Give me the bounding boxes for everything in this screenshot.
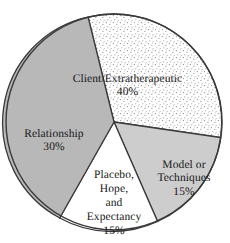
pie-label-client-extratherapeutic-text: Client/Extratherapeutic [73,73,183,85]
pie-label-model-or-techniques: Model or Techniques 15% [142,145,226,213]
pie-label-model-or-techniques-text: Model or Techniques [157,159,210,185]
pie-chart-figure: Client/Extratherapeutic 40% Relationship… [0,0,230,243]
pie-label-client-extratherapeutic: Client/Extratherapeutic 40% [60,60,195,112]
pie-label-placebo-hope-expectancy-percent: 15% [74,224,154,238]
pie-label-relationship-percent: 30% [10,141,98,154]
pie-label-model-or-techniques-percent: 15% [142,186,226,200]
pie-label-client-extratherapeutic-percent: 40% [60,86,195,99]
pie-label-placebo-hope-expectancy-text: Placebo, Hope, and Expectancy [87,169,142,223]
pie-label-relationship-text: Relationship [24,128,83,140]
